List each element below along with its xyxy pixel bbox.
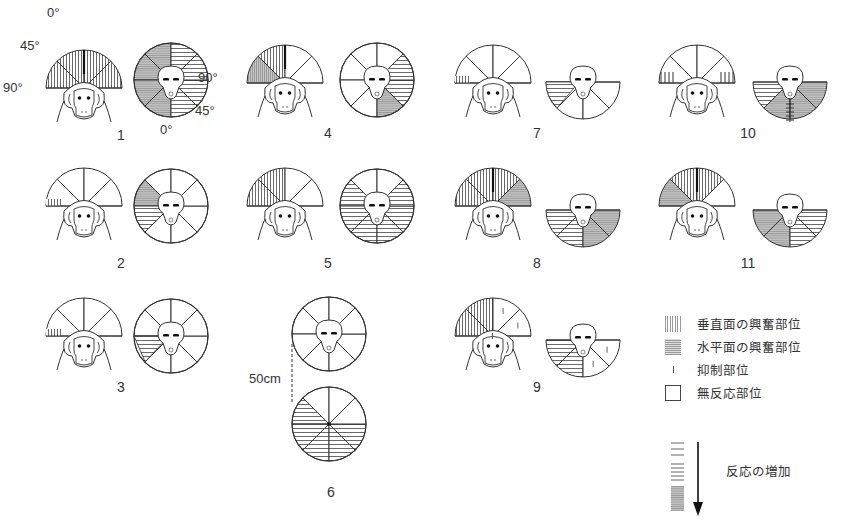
empty-box-icon <box>665 385 681 401</box>
panel-7: 7 <box>455 45 620 141</box>
panel-10: 10 <box>659 45 827 141</box>
panel-6: 50cm6 <box>249 297 366 500</box>
angle-label: 45° <box>20 38 40 53</box>
angle-label: 90° <box>198 70 218 85</box>
panel-number-label: 7 <box>533 125 541 141</box>
panel-number-label: 10 <box>740 125 756 141</box>
vertical-hatch-swatch-icon <box>665 316 681 332</box>
panel-4: 4 <box>247 43 414 141</box>
legend-label: 水平面の興奮部位 <box>697 337 801 356</box>
horizontal-hatch-swatch-icon <box>665 339 681 355</box>
inhibition-tick-icon <box>665 362 681 378</box>
angle-label: 0° <box>47 5 59 20</box>
panel-number-label: 2 <box>117 255 125 271</box>
legend: 垂直面の興奮部位 水平面の興奮部位 抑制部位 無反応部位 <box>665 313 845 403</box>
angle-label: 90° <box>3 80 23 95</box>
panel-11: 11 <box>659 168 827 271</box>
increase-scale-icon <box>668 440 728 521</box>
panel-number-label: 11 <box>741 255 756 271</box>
panel-number-label: 8 <box>533 255 541 271</box>
legend-label: 無反応部位 <box>697 383 762 402</box>
panel-2: 2 <box>46 168 208 271</box>
increase-label: 反応の増加 <box>726 461 791 480</box>
panel-number-label: 1 <box>117 127 125 143</box>
panel-number-label: 4 <box>324 125 332 141</box>
panel-number-label: 5 <box>324 255 332 271</box>
legend-item-vertical: 垂直面の興奮部位 <box>665 313 845 334</box>
figure-stage: 1234550cm678910110°45°90°90°45°0° 垂直面の興奮… <box>0 0 845 521</box>
panel-number-label: 9 <box>533 379 541 395</box>
response-increase-scale: 反応の増加 <box>668 440 838 521</box>
panel-3: 3 <box>46 298 208 395</box>
panel-number-label: 3 <box>117 379 125 395</box>
legend-label: 抑制部位 <box>697 360 749 379</box>
angle-label: 0° <box>160 122 172 137</box>
panel-5: 5 <box>247 168 414 271</box>
panel-9: 9 <box>455 298 620 395</box>
panel-8: 8 <box>455 168 620 271</box>
panel-number-label: 6 <box>327 484 335 500</box>
legend-item-horizontal: 水平面の興奮部位 <box>665 336 845 357</box>
legend-item-inhibition: 抑制部位 <box>665 359 845 380</box>
legend-item-none: 無反応部位 <box>665 382 845 403</box>
angle-label: 45° <box>195 103 215 118</box>
panel-1: 1 <box>46 43 208 143</box>
distance-label: 50cm <box>249 371 281 386</box>
legend-label: 垂直面の興奮部位 <box>697 314 801 333</box>
